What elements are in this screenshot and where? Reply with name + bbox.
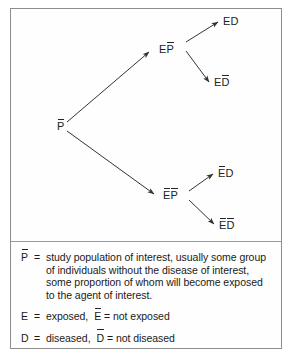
edge-exposed-to-ed (186, 22, 218, 42)
legend-row-population: P = study population of interest, usuall… (21, 251, 271, 301)
node-exposed-label-e: E (159, 43, 167, 55)
leaf-ed-label: ED (223, 15, 239, 27)
legend-disease-negative-symbol: D (97, 332, 105, 345)
node-exposed-label-p: P (167, 44, 175, 55)
node-leaf-exposed-notdiseased: ED (214, 77, 230, 88)
legend-exposure-negative-equals: = (104, 310, 110, 322)
legend-row-disease: D = diseased,D = not diseased (21, 332, 271, 345)
node-unexposed-population: EP (163, 190, 178, 201)
legend-population-line1: study population of interest, usually so… (46, 251, 271, 264)
node-leaf-unexposed-notdiseased: ED (219, 220, 235, 231)
legend-disease-negative-equals: = (107, 332, 113, 344)
leaf-ednot-label-d: D (222, 77, 230, 88)
node-root-population: P (57, 121, 65, 132)
legend-population-equals: = (34, 251, 46, 264)
legend-population-text: study population of interest, usually so… (46, 251, 271, 301)
edge-root-to-exposed (67, 52, 149, 122)
legend-population-line3: some proportion of whom will become expo… (46, 276, 271, 289)
legend: P = study population of interest, usuall… (11, 242, 281, 348)
edge-exposed-to-ednot (186, 51, 209, 82)
legend-disease-positive: diseased, (46, 332, 91, 344)
legend-disease-negative: not diseased (116, 332, 175, 344)
leaf-ednot-label-e: E (214, 76, 222, 88)
legend-population-line2: of individuals without the disease of in… (46, 264, 271, 277)
node-root-label: P (57, 121, 65, 132)
legend-population-line4: to the agent of interest. (46, 289, 271, 302)
leaf-ebard-label-e: E (218, 168, 226, 179)
legend-exposure-symbol: E (21, 310, 34, 323)
legend-exposure-negative: not exposed (113, 310, 170, 322)
edge-unexposed-to-ednot (189, 200, 214, 224)
node-leaf-unexposed-diseased: ED (218, 168, 234, 179)
legend-disease-equals: = (34, 332, 46, 345)
legend-disease-text: diseased,D = not diseased (46, 332, 271, 345)
leaf-ebardbar-label-e: E (219, 220, 227, 231)
edge-root-to-unexposed (67, 131, 154, 194)
legend-population-symbol-text: P (21, 251, 28, 264)
legend-exposure-equals: = (34, 310, 46, 323)
legend-population-symbol: P (21, 251, 34, 264)
legend-exposure-positive: exposed, (46, 310, 88, 322)
legend-exposure-negative-symbol: E (94, 310, 101, 323)
legend-row-exposure: E = exposed,E = not exposed (21, 310, 271, 323)
node-exposed-population: EP (159, 44, 174, 55)
tree-branches-svg (11, 9, 281, 241)
figure-frame: P EP EP ED ED ED ED P (10, 8, 282, 349)
node-unexposed-label-e: E (163, 190, 171, 201)
node-unexposed-label-p: P (171, 190, 179, 201)
legend-disease-symbol: D (21, 332, 34, 345)
node-leaf-exposed-diseased: ED (223, 16, 239, 27)
tree-diagram: P EP EP ED ED ED ED (11, 9, 281, 241)
legend-exposure-text: exposed,E = not exposed (46, 310, 271, 323)
edge-unexposed-to-ed (189, 174, 213, 191)
leaf-ebard-label-d: D (226, 167, 234, 179)
leaf-ebardbar-label-d: D (227, 220, 235, 231)
